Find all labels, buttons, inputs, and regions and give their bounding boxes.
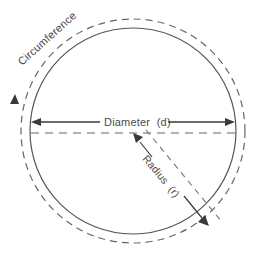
circumference-direction-arrowhead xyxy=(10,94,19,104)
diameter-arrowhead-left xyxy=(31,118,41,126)
solid-circle xyxy=(30,28,236,234)
radius-arrowhead-center xyxy=(133,133,143,143)
radius-label: Radius (r) xyxy=(140,153,182,200)
radius-arrowhead-rim xyxy=(198,215,209,226)
diagram-canvas: Circumference Diameter (d) Radius (r) xyxy=(0,0,268,263)
circle-diagram-figure: Circumference Diameter (d) Radius (r) xyxy=(0,0,268,263)
diameter-label: Diameter (d) xyxy=(104,116,171,128)
circumference-label: Circumference xyxy=(15,9,78,68)
diameter-arrowhead-right xyxy=(225,118,235,126)
